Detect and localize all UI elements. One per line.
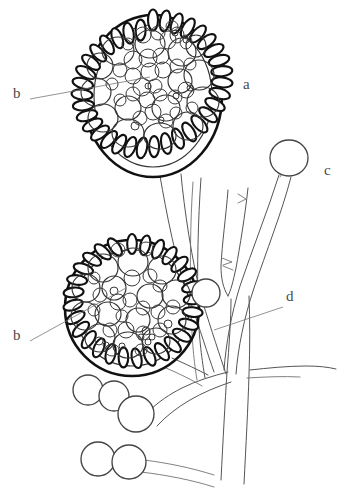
figure-root: b a c d b — [0, 0, 346, 495]
septum-mark-1 — [222, 258, 232, 265]
upper-sporangium — [71, 10, 233, 178]
sporangiole-c — [270, 140, 308, 176]
branch-right — [250, 366, 336, 370]
leader-d — [214, 307, 283, 330]
attached-spore-right — [192, 279, 220, 307]
branch-lower-left-2 — [157, 382, 231, 426]
label-a: a — [243, 77, 250, 92]
detached-spores — [73, 375, 154, 479]
label-b-lower: b — [13, 328, 21, 343]
branch-fork-right — [228, 188, 248, 296]
upper-wall-cells — [71, 10, 233, 160]
detached-spore-3 — [118, 396, 154, 432]
branch-fork-left — [221, 190, 228, 296]
hypha-vertical-left — [198, 178, 205, 378]
detached-spore-5 — [112, 445, 146, 479]
stalk-c-left — [224, 175, 279, 370]
lower-sporangium — [62, 234, 204, 376]
septum-mark-2 — [223, 266, 233, 270]
stalk-c-right — [236, 177, 291, 374]
detached-spore-4 — [81, 442, 115, 476]
line-drawing-canvas — [0, 0, 346, 495]
trunk-right-contour — [244, 296, 250, 484]
label-c: c — [324, 163, 331, 178]
detached-stalk-upper — [144, 460, 214, 475]
septum-mark-3 — [238, 194, 246, 203]
detached-stalk-lower — [141, 472, 214, 487]
label-d: d — [286, 289, 294, 304]
branch-right-inner — [247, 377, 300, 378]
label-b-upper: b — [13, 86, 21, 101]
detached-spore-1 — [73, 375, 103, 405]
